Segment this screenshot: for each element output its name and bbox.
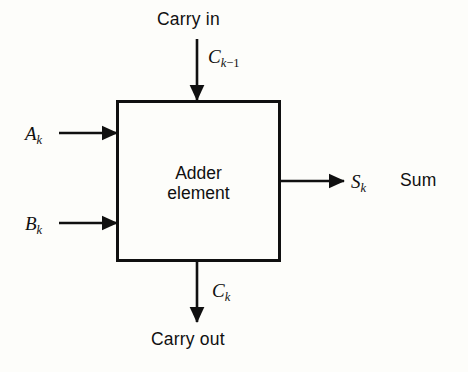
adder-element-label: Adder element xyxy=(117,163,280,203)
sum-symbol-base: S xyxy=(351,171,361,192)
sum-symbol-sub: k xyxy=(361,181,367,195)
operand-b-symbol-base: B xyxy=(25,213,37,234)
carry-in-symbol-base: C xyxy=(208,46,221,67)
sum-symbol: Sk xyxy=(351,172,366,194)
adder-element-label-line2: element xyxy=(117,183,280,203)
figure-canvas: Carry in Ck−1 Ak Bk Adder element Sk Sum… xyxy=(0,0,468,372)
carry-out-symbol: Ck xyxy=(212,281,230,303)
sum-caption: Sum xyxy=(400,172,437,190)
operand-a-symbol: Ak xyxy=(25,124,42,146)
operand-b-symbol-sub: k xyxy=(37,223,43,237)
carry-out-symbol-base: C xyxy=(212,280,225,301)
adder-element-label-line1: Adder xyxy=(117,163,280,183)
carry-out-symbol-sub: k xyxy=(225,290,231,304)
carry-out-caption: Carry out xyxy=(151,331,225,349)
operand-a-symbol-base: A xyxy=(25,123,37,144)
operand-a-symbol-sub: k xyxy=(37,133,43,147)
carry-in-caption: Carry in xyxy=(157,11,220,29)
carry-in-symbol-sub-num: 1 xyxy=(233,56,239,70)
carry-in-symbol: Ck−1 xyxy=(208,47,240,69)
operand-b-symbol: Bk xyxy=(25,214,42,236)
